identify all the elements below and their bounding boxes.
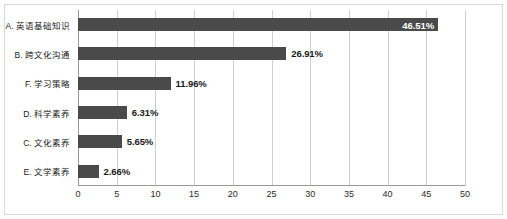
category-label-e: E. 文学素养	[24, 157, 70, 186]
bar-b	[78, 47, 286, 60]
bar-row: 6.31%	[78, 98, 465, 127]
xtick-0: 0	[75, 189, 80, 199]
xtick-30: 30	[305, 189, 315, 199]
bar-row: 11.96%	[78, 69, 465, 98]
x-axis-line	[78, 185, 465, 186]
bar-value-f: 11.96%	[176, 78, 207, 89]
xtick-50: 50	[460, 189, 470, 199]
bar-value-e: 2.66%	[104, 166, 130, 177]
xtick-25: 25	[266, 189, 276, 199]
bar-e	[78, 165, 99, 178]
xtick-15: 15	[189, 189, 199, 199]
category-label-c: C. 文化素养	[23, 127, 70, 156]
xtick-10: 10	[150, 189, 160, 199]
xtick-5: 5	[114, 189, 119, 199]
bar-row: 2.66%	[78, 157, 465, 186]
bar-row: 46.51%	[78, 10, 465, 39]
xtick-45: 45	[421, 189, 431, 199]
bar-series: 46.51% 26.91% 11.96% 6.31% 5.65% 2.6	[78, 10, 465, 186]
xtick-20: 20	[228, 189, 238, 199]
bar-row: 26.91%	[78, 39, 465, 68]
bar-value-a: 46.51%	[402, 19, 434, 30]
gridline-50	[465, 10, 466, 186]
xtick-35: 35	[344, 189, 354, 199]
bar-f	[78, 77, 171, 90]
bar-value-c: 5.65%	[127, 136, 153, 147]
x-axis-ticks: 0 5 10 15 20 25 30 35 40 45 50	[78, 189, 465, 207]
xtick-40: 40	[383, 189, 393, 199]
bar-value-b: 26.91%	[291, 48, 323, 59]
category-label-f: F. 学习策略	[25, 69, 70, 98]
category-axis: A. 英语基础知识 B. 跨文化沟通 F. 学习策略 D. 科学素养 C. 文化…	[0, 10, 74, 186]
category-label-a: A. 英语基础知识	[6, 10, 70, 39]
category-label-b: B. 跨文化沟通	[15, 39, 70, 68]
category-label-d: D. 科学素养	[23, 98, 70, 127]
bar-value-d: 6.31%	[132, 107, 158, 118]
bar-a: 46.51%	[78, 18, 438, 31]
plot-area: 46.51% 26.91% 11.96% 6.31% 5.65% 2.6	[78, 10, 465, 186]
bar-row: 5.65%	[78, 127, 465, 156]
bar-chart: A. 英语基础知识 B. 跨文化沟通 F. 学习策略 D. 科学素养 C. 文化…	[0, 0, 507, 219]
bar-d	[78, 106, 127, 119]
bar-c	[78, 135, 122, 148]
